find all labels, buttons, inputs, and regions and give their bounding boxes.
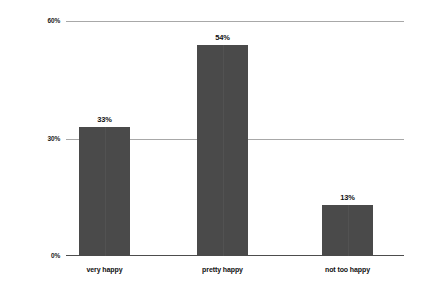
bar-very-happy: [79, 127, 130, 256]
bar-value-label-pretty-happy: 54%: [197, 33, 248, 42]
bar-value-label-very-happy: 33%: [79, 115, 130, 124]
bar-pretty-happy: [197, 45, 248, 257]
bar-inner-seam: [348, 205, 349, 256]
y-axis-tick-label-30: 30%: [16, 135, 60, 143]
gridline-60: [66, 21, 404, 22]
bar-not-too-happy: [322, 205, 373, 256]
x-axis-label-pretty-happy: pretty happy: [173, 265, 273, 274]
bar-chart: 60% 30% 0% 33%very happy54%pretty happy1…: [0, 0, 426, 291]
bar-value-label-not-too-happy: 13%: [322, 193, 373, 202]
x-axis-label-not-too-happy: not too happy: [298, 265, 398, 274]
plot-area: [66, 21, 404, 256]
y-axis-tick-label-0: 0%: [16, 252, 60, 260]
bar-inner-seam: [105, 127, 106, 256]
bar-inner-seam: [223, 45, 224, 257]
x-axis-label-very-happy: very happy: [55, 265, 155, 274]
y-axis-tick-label-60: 60%: [16, 17, 60, 25]
